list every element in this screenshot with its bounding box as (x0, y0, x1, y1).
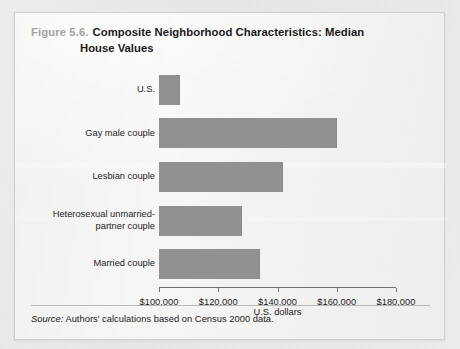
bar-row (159, 75, 396, 105)
category-axis-labels: U.S.Gay male coupleLesbian coupleHeteros… (25, 70, 155, 288)
figure-title-line-1: Composite Neighborhood Characteristics: … (93, 25, 365, 41)
source-note: Source: Authors' calculations based on C… (31, 313, 274, 324)
bar-row (159, 162, 396, 192)
value-axis-tick (278, 288, 279, 292)
bar-series (159, 70, 396, 288)
bar (159, 162, 283, 192)
bar (159, 206, 242, 236)
value-axis-tick (337, 288, 338, 292)
bar-chart: U.S.Gay male coupleLesbian coupleHeteros… (15, 57, 446, 307)
category-label: Heterosexual unmarried-partner couple (25, 209, 155, 232)
value-axis-tick (159, 288, 160, 292)
category-label-line: Gay male couple (25, 128, 155, 140)
category-label-line: Heterosexual unmarried- (25, 209, 155, 221)
source-text: Authors' calculations based on Census 20… (63, 313, 273, 324)
source-divider (31, 305, 430, 306)
source-label: Source: (31, 313, 63, 324)
category-label: Gay male couple (25, 128, 155, 140)
bar-row (159, 206, 396, 236)
value-axis-tick (218, 288, 219, 292)
figure-title-block: Figure 5.6. Composite Neighborhood Chara… (31, 25, 426, 56)
category-label-line: partner couple (25, 221, 155, 233)
bar (159, 249, 260, 279)
bar-row (159, 118, 396, 148)
bar (159, 118, 337, 148)
bar (159, 75, 180, 105)
plot-area: $100,000$120,000$140,000$160,000$180,000 (159, 70, 396, 288)
category-label-line: U.S. (25, 84, 155, 96)
category-label: U.S. (25, 84, 155, 96)
category-label: Lesbian couple (25, 171, 155, 183)
figure-title-line-2: House Values (80, 41, 426, 57)
figure-number-label: Figure 5.6. (31, 25, 93, 41)
value-axis-tick (396, 288, 397, 292)
figure-page: Figure 5.6. Composite Neighborhood Chara… (0, 0, 460, 349)
category-label: Married couple (25, 258, 155, 270)
figure-card: Figure 5.6. Composite Neighborhood Chara… (14, 12, 445, 340)
category-label-line: Lesbian couple (25, 171, 155, 183)
category-label-line: Married couple (25, 258, 155, 270)
bar-row (159, 249, 396, 279)
